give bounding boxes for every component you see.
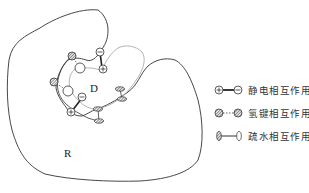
hydrophobic-icon — [214, 130, 244, 142]
hydrogen-bond-interaction-1 — [68, 52, 85, 73]
hydrophobic-interaction-2 — [94, 107, 104, 123]
hydrogen-bond-icon — [214, 107, 244, 119]
legend: 静电相互作用 氢键相互作用 — [214, 78, 309, 147]
legend-item-electrostatic: 静电相互作用 — [214, 78, 309, 101]
receptor-outline — [7, 10, 202, 182]
legend-label: 氢键相互作用 — [248, 106, 309, 120]
legend-item-hydrophobic: 疏水相互作用 — [214, 124, 309, 147]
electrostatic-icon — [214, 84, 244, 96]
legend-label: 疏水相互作用 — [248, 129, 309, 143]
drug-label: D — [90, 82, 98, 94]
legend-item-hydrogen-bond: 氢键相互作用 — [214, 101, 309, 124]
receptor-label: R — [64, 147, 71, 159]
receptor-drug-diagram — [0, 0, 210, 193]
legend-label: 静电相互作用 — [248, 83, 309, 97]
